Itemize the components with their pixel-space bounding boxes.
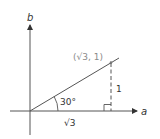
- b-axis-label: b: [27, 12, 33, 23]
- adjacent-length-label: √3: [64, 118, 75, 128]
- point-label: (√3, 1): [73, 52, 103, 62]
- complex-plane-diagram: b a (√3, 1) 30° 1 √3: [0, 0, 160, 139]
- right-angle-marker: [104, 105, 111, 112]
- angle-arc: [54, 97, 58, 111]
- opposite-length-label: 1: [116, 84, 122, 94]
- a-axis-label: a: [141, 106, 147, 117]
- angle-label: 30°: [60, 97, 76, 107]
